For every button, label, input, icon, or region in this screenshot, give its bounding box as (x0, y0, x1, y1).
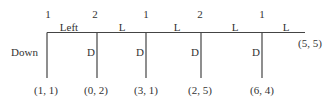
edge-label-continue-5: L (283, 21, 290, 33)
player-label-node-1: 1 (45, 8, 51, 20)
payoff-4: (2, 5) (188, 84, 212, 96)
player-label-node-2: 2 (92, 8, 98, 20)
edge-label-stop-5: D (252, 46, 260, 58)
edge-label-continue-3: L (174, 21, 181, 33)
player-label-node-4: 2 (197, 8, 203, 20)
player-label-node-3: 1 (143, 8, 149, 20)
player-label-node-5: 1 (259, 8, 265, 20)
terminal-payoff: (5, 5) (298, 37, 322, 49)
edge-label-stop-3: D (136, 46, 144, 58)
payoff-1: (1, 1) (34, 84, 58, 96)
edge-label-continue-1: Left (60, 21, 78, 33)
edge-label-stop-4: D (191, 46, 199, 58)
payoff-5: (6, 4) (250, 84, 274, 96)
payoff-2: (0, 2) (84, 84, 108, 96)
edge-label-stop-1: Down (11, 46, 38, 58)
edge-label-continue-4: L (232, 21, 239, 33)
edge-label-stop-2: D (87, 46, 95, 58)
payoff-3: (3, 1) (134, 84, 158, 96)
edge-label-continue-2: L (119, 21, 126, 33)
